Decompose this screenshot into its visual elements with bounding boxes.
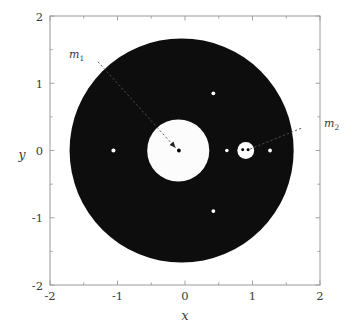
body-m2-a	[241, 148, 244, 151]
ytick-label-neg2: -2	[32, 279, 43, 293]
xtick-label-neg2: -2	[44, 289, 55, 303]
ytick-label-0: 0	[36, 144, 43, 158]
secondary-cavity	[237, 142, 254, 159]
xtick-label-1: 1	[249, 289, 256, 303]
xtick-label-0: 0	[181, 289, 188, 303]
ytick-label-1: 1	[36, 77, 43, 91]
ytick-label-2: 2	[36, 10, 43, 24]
body-m2-b	[247, 148, 250, 151]
figure-container: -2 -1 0 1 2 2 1 0 -1 -2 x y m1 m2	[0, 0, 353, 330]
x-axis-label: x	[181, 308, 188, 323]
marker-point-upper	[211, 91, 215, 95]
xtick-label-neg1: -1	[112, 289, 123, 303]
body-m1	[177, 149, 181, 153]
y-axis-label: y	[17, 147, 26, 162]
plot-svg: -2 -1 0 1 2 2 1 0 -1 -2 x y m1 m2	[0, 0, 353, 330]
ytick-label-neg1: -1	[32, 211, 43, 225]
xtick-label-2: 2	[316, 289, 323, 303]
marker-point-outer-right	[268, 149, 272, 153]
data-layer	[70, 38, 294, 262]
marker-point-left	[111, 148, 115, 152]
marker-point-lower	[211, 209, 215, 213]
marker-point-inner-right	[225, 149, 229, 153]
